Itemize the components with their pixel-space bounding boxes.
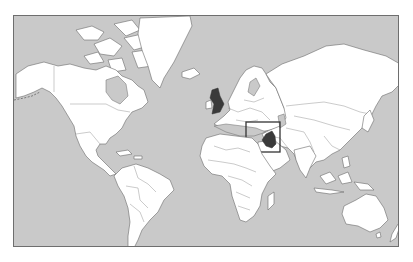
- world-map: [13, 15, 399, 247]
- world-map-svg: [14, 16, 399, 247]
- ireland: [206, 100, 212, 109]
